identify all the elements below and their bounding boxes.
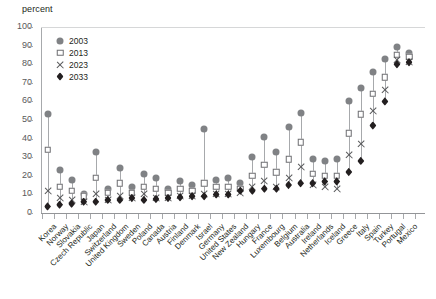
y-axis-tick-mark: [28, 157, 33, 158]
data-point-2013: [153, 186, 160, 193]
data-point-2003: [44, 111, 51, 118]
data-point-2023: [381, 86, 389, 94]
x-axis-tick-mark: [174, 214, 175, 219]
data-point-2013: [261, 161, 268, 168]
data-point-2003: [56, 167, 63, 174]
x-axis-tick-mark: [282, 214, 283, 219]
data-point-2003: [333, 156, 340, 163]
legend-item-2033: 2033: [54, 71, 88, 82]
legend-item-2013: 2013: [54, 47, 88, 58]
x-axis-tick-mark: [186, 214, 187, 219]
chart-legend: 2003201320232033: [52, 33, 92, 85]
data-point-2003: [297, 109, 304, 116]
x-axis-tick-mark: [222, 214, 223, 219]
data-point-2013: [105, 189, 112, 196]
x-axis-tick-mark: [162, 214, 163, 219]
data-point-2003: [369, 68, 376, 75]
data-point-2003: [177, 178, 184, 185]
data-point-2003: [201, 126, 208, 133]
x-axis-tick-mark: [126, 214, 127, 219]
y-axis-tick-mark: [28, 64, 33, 65]
circle-icon: [54, 36, 66, 46]
legend-label: 2003: [69, 36, 88, 46]
data-point-2003: [152, 174, 159, 181]
x-axis-tick-mark: [307, 214, 308, 219]
data-point-2013: [225, 184, 232, 191]
data-point-2003: [213, 176, 220, 183]
diamond-icon: [54, 72, 66, 82]
y-axis-tick-mark: [28, 46, 33, 47]
data-point-2003: [92, 148, 99, 155]
data-point-2023: [92, 190, 100, 198]
legend-label: 2033: [69, 72, 88, 82]
data-point-2013: [309, 171, 316, 178]
data-point-2013: [249, 173, 256, 180]
data-point-2003: [68, 176, 75, 183]
legend-label: 2013: [69, 48, 88, 58]
x-axis-tick-mark: [102, 214, 103, 219]
legend-label: 2023: [69, 60, 88, 70]
y-axis-tick-mark: [28, 120, 33, 121]
x-axis-tick-mark: [343, 214, 344, 219]
y-axis-tick-mark: [28, 27, 33, 28]
x-axis-tick-mark: [114, 214, 115, 219]
data-point-2013: [92, 174, 99, 181]
x-axis-tick-mark: [319, 214, 320, 219]
data-point-2013: [382, 74, 389, 81]
legend-item-2023: 2023: [54, 59, 88, 70]
data-point-2013: [346, 130, 353, 137]
data-point-2003: [393, 44, 400, 51]
x-axis-tick-mark: [415, 214, 416, 219]
x-axis-tick-mark: [66, 214, 67, 219]
x-axis-tick-mark: [270, 214, 271, 219]
x-axis-tick-mark: [355, 214, 356, 219]
data-point-2023: [345, 151, 353, 159]
data-point-2013: [117, 180, 124, 187]
data-point-2023: [285, 174, 293, 182]
x-axis-tick-mark: [138, 214, 139, 219]
x-axis-tick-mark: [78, 214, 79, 219]
data-point-2013: [297, 139, 304, 146]
x-axis-tick-mark: [331, 214, 332, 219]
data-point-2003: [285, 124, 292, 131]
data-point-2023: [357, 140, 365, 148]
x-axis-tick-mark: [42, 214, 43, 219]
population-projection-chart: percent 0102030405060708090100 200320132…: [0, 0, 436, 299]
data-point-2003: [321, 157, 328, 164]
y-axis-tick-mark: [28, 194, 33, 195]
x-axis-tick-mark: [210, 214, 211, 219]
x-axis-tick-mark: [295, 214, 296, 219]
data-point-2013: [370, 91, 377, 98]
x-axis-tick-mark: [150, 214, 151, 219]
range-stem: [373, 72, 374, 126]
range-stem: [361, 88, 362, 161]
y-axis-tick-mark: [28, 83, 33, 84]
plot-area: [41, 27, 424, 213]
data-point-2023: [369, 107, 377, 115]
data-point-2003: [225, 174, 232, 181]
data-point-2013: [285, 156, 292, 163]
data-point-2023: [333, 185, 341, 193]
y-axis-tick-mark: [28, 101, 33, 102]
data-point-2003: [261, 133, 268, 140]
data-point-2003: [140, 170, 147, 177]
x-axis-tick-mark: [198, 214, 199, 219]
data-point-2013: [56, 184, 63, 191]
x-axis-tick-mark: [379, 214, 380, 219]
data-point-2013: [201, 180, 208, 187]
x-axis-tick-mark: [403, 214, 404, 219]
data-point-2013: [68, 187, 75, 194]
x-axis-tick-mark: [258, 214, 259, 219]
legend-item-2003: 2003: [54, 35, 88, 46]
data-point-2003: [249, 154, 256, 161]
data-point-2003: [381, 55, 388, 62]
range-stem: [301, 113, 302, 184]
y-axis-tick-mark: [28, 213, 33, 214]
data-point-2003: [345, 98, 352, 105]
data-point-2003: [357, 85, 364, 92]
data-point-2023: [44, 187, 52, 195]
x-axis-tick-mark: [90, 214, 91, 219]
x-axis-tick-mark: [367, 214, 368, 219]
square-icon: [54, 48, 66, 58]
data-point-2003: [309, 156, 316, 163]
